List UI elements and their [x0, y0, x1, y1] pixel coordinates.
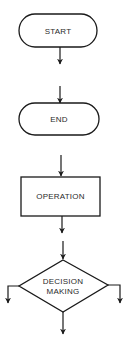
- decision-right-branch-arrow: [108, 285, 120, 303]
- operation-label: OPERATION: [36, 192, 84, 201]
- start-label: START: [45, 27, 71, 36]
- decision-label-line1: DECISION: [43, 277, 83, 286]
- decision-diamond-node: DECISION MAKING: [19, 260, 108, 312]
- end-label: END: [50, 115, 68, 124]
- end-terminal-node: END: [19, 103, 99, 135]
- decision-label-line2: MAKING: [47, 287, 80, 296]
- flowchart-diagram: START END OPERATION DECISION MAKING: [0, 0, 132, 343]
- operation-process-node: OPERATION: [21, 177, 100, 216]
- start-terminal-node: START: [19, 14, 97, 47]
- decision-left-branch-arrow: [8, 286, 19, 303]
